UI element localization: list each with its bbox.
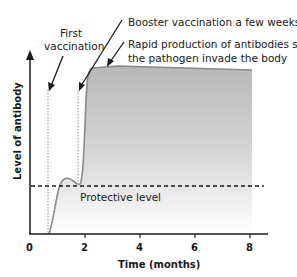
booster-label: Booster vaccination a few weeks later — [128, 16, 297, 28]
first-vaccination-arrow — [51, 56, 63, 86]
first-vaccination-label-2: vaccination — [44, 40, 104, 52]
x-tick-4: 4 — [136, 242, 143, 253]
rapid-label-1: Rapid production of antibodies should — [128, 38, 297, 50]
first-vaccination-label-1: First — [60, 27, 82, 39]
x-tick-0: 0 — [26, 242, 33, 253]
rapid-arrow — [110, 42, 124, 62]
x-tick-8: 8 — [246, 242, 253, 253]
x-tick-2: 2 — [81, 242, 88, 253]
y-axis-title: Level of antibody — [12, 82, 23, 180]
antibody-area — [49, 66, 252, 234]
y-axis-arrow-icon — [26, 50, 34, 60]
x-tick-6: 6 — [191, 242, 198, 253]
rapid-label-2: the pathogen invade the body — [128, 52, 287, 64]
protective-level-label: Protective level — [80, 191, 161, 203]
antibody-chart: Protective level 0 2 4 6 8 Time (months)… — [0, 0, 297, 277]
x-axis-title: Time (months) — [118, 259, 200, 270]
